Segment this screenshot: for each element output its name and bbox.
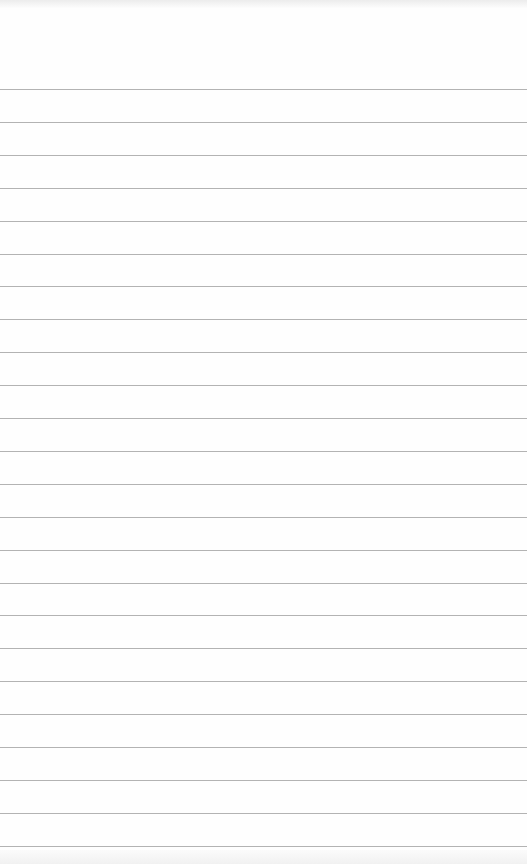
- ruled-line: [0, 122, 527, 123]
- ruled-line: [0, 747, 527, 748]
- ruled-line: [0, 583, 527, 584]
- bottom-edge-shadow: [0, 850, 527, 864]
- ruled-line: [0, 484, 527, 485]
- ruled-line: [0, 846, 527, 847]
- ruled-line: [0, 550, 527, 551]
- ruled-line: [0, 451, 527, 452]
- ruled-line: [0, 286, 527, 287]
- ruled-line: [0, 418, 527, 419]
- lined-paper: [0, 0, 527, 864]
- ruled-line: [0, 648, 527, 649]
- ruled-line: [0, 615, 527, 616]
- ruled-line: [0, 352, 527, 353]
- ruled-line: [0, 319, 527, 320]
- ruled-line: [0, 681, 527, 682]
- ruled-line: [0, 780, 527, 781]
- ruled-line: [0, 89, 527, 90]
- ruled-line: [0, 517, 527, 518]
- ruled-line: [0, 385, 527, 386]
- ruled-line: [0, 254, 527, 255]
- top-edge-shadow: [0, 0, 527, 8]
- ruled-line: [0, 221, 527, 222]
- ruled-line: [0, 155, 527, 156]
- ruled-line: [0, 813, 527, 814]
- ruled-line: [0, 714, 527, 715]
- ruled-line: [0, 188, 527, 189]
